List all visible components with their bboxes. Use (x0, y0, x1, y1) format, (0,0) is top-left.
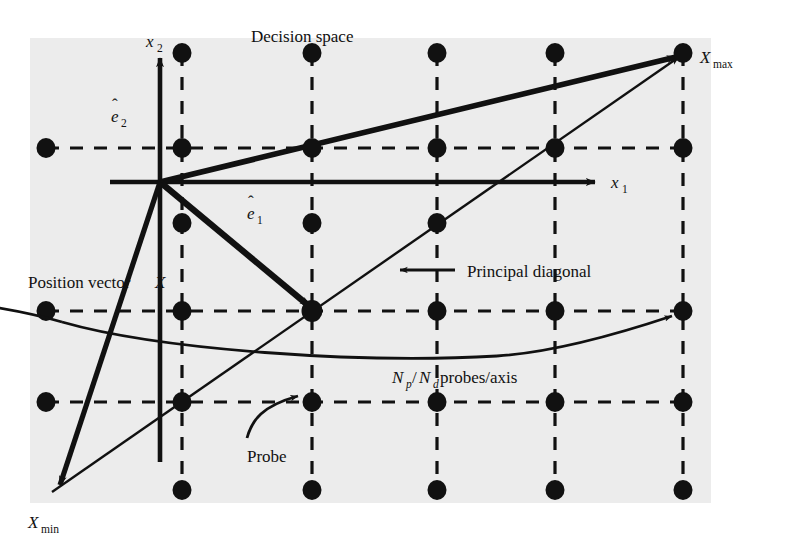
probe-dot (546, 43, 565, 63)
xmin-label-subscript: min (41, 523, 59, 535)
unit-vector-e1-subscript: 1 (257, 214, 263, 226)
x2-axis-label-symbol: x (145, 32, 154, 51)
probe-label: Probe (247, 447, 287, 466)
probes-per-axis-np-subscript: p (405, 378, 412, 391)
probe-dot-probe-callout (303, 392, 322, 412)
probe-dot (303, 480, 322, 500)
unit-vector-e2-subscript: 2 (121, 117, 127, 129)
probe-dot (674, 480, 693, 500)
probe-dot (173, 392, 192, 412)
probes-per-axis-np-symbol: N (391, 368, 405, 387)
probe-dot (428, 43, 447, 63)
probe-dot (428, 480, 447, 500)
xmin-label-symbol: X (27, 513, 39, 532)
probe-dot (173, 43, 192, 63)
probes-per-axis-nd-symbol: N (418, 368, 432, 387)
decision-space-label: Decision space (251, 27, 353, 46)
probes-per-axis-slash: / (412, 368, 417, 387)
probe-dot (303, 43, 322, 63)
probe-dot (428, 301, 447, 321)
probe-dot (428, 138, 447, 158)
xmax-label-subscript: max (713, 58, 733, 70)
probe-dot (428, 213, 447, 233)
position-vector-label-symbol: X (154, 273, 166, 292)
probe-dot-xmax (674, 43, 693, 63)
probe-dot (303, 213, 322, 233)
xmax-label: X max (699, 48, 733, 70)
xmin-label: X min (27, 513, 59, 535)
probe-dot (546, 138, 565, 158)
probe-dot (173, 480, 192, 500)
principal-diagonal-label: Principal diagonal (467, 262, 591, 281)
probe-dot (37, 138, 56, 158)
probe-dot (37, 392, 56, 412)
x1-axis-label-symbol: x (610, 173, 619, 192)
probe-dot (674, 138, 693, 158)
x1-axis-label-subscript: 1 (622, 183, 628, 195)
probe-dot (546, 480, 565, 500)
probe-dot-position-vector-tip (302, 300, 323, 322)
probe-dot (173, 301, 192, 321)
unit-vector-e2-hat-icon: ˆ (112, 95, 118, 114)
probe-dot (428, 392, 447, 412)
probe-dot (674, 392, 693, 412)
probe-dot (173, 138, 192, 158)
probe-dot (546, 301, 565, 321)
probe-dot (546, 392, 565, 412)
figure-container: Decision space x 2 x 1 e ˆ 2 e ˆ 1 X max (0, 0, 787, 558)
x2-axis-label-subscript: 2 (157, 42, 163, 54)
unit-vector-e1-hat-icon: ˆ (248, 192, 254, 211)
xmax-label-symbol: X (699, 48, 711, 67)
probe-dot (173, 213, 192, 233)
probes-per-axis-text: probes/axis (440, 368, 517, 387)
probe-dot (674, 301, 693, 321)
decision-space-diagram: Decision space x 2 x 1 e ˆ 2 e ˆ 1 X max (0, 0, 787, 558)
probes-per-axis-nd-subscript: d (433, 378, 439, 390)
position-vector-label-text: Position vector (28, 273, 131, 292)
probe-dot (303, 138, 322, 158)
